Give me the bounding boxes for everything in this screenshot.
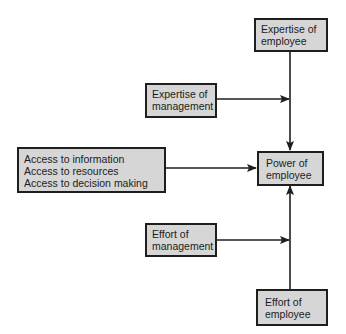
node-label-line: Expertise of	[152, 88, 210, 100]
node-label-line: Access to resources	[24, 165, 159, 177]
node-label-line: Power of	[266, 157, 315, 169]
node-label-line: Expertise of	[261, 23, 321, 35]
node-label-line: management	[152, 100, 210, 112]
node-effort-of-management: Effort of management	[145, 223, 217, 257]
node-effort-of-employee: Effort of employee	[256, 289, 328, 326]
node-access: Access to information Access to resource…	[17, 147, 166, 193]
node-label-line: employee	[266, 169, 315, 181]
node-label-line: Access to decision making	[24, 177, 159, 189]
node-label-line: management	[152, 240, 210, 252]
node-label-line: Effort of	[265, 296, 319, 308]
node-label-line: employee	[261, 35, 321, 47]
node-expertise-of-employee: Expertise of employee	[254, 18, 328, 52]
node-label-line: employee	[265, 308, 319, 320]
node-expertise-of-management: Expertise of management	[145, 83, 217, 118]
node-label-line: Effort of	[152, 228, 210, 240]
node-label-line: Access to information	[24, 153, 159, 165]
node-power-of-employee: Power of employee	[257, 151, 324, 186]
